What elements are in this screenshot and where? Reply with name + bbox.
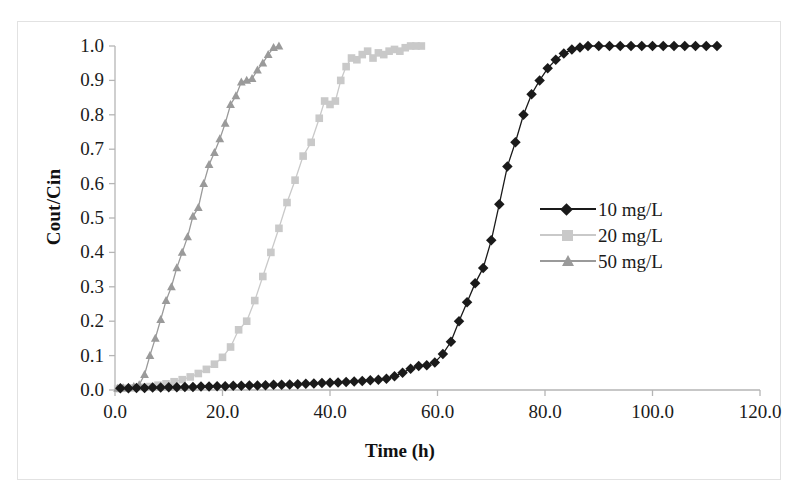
x-tick-label: 60.0 (393, 402, 483, 421)
series-marker (183, 232, 192, 240)
legend-marker-diamond-icon (560, 203, 573, 216)
series-marker (594, 41, 605, 52)
series-marker (258, 59, 267, 67)
series-marker (446, 337, 457, 348)
series-marker (422, 360, 433, 371)
series-marker (604, 41, 615, 52)
x-tick-label: 120.0 (715, 402, 801, 421)
series-marker (470, 278, 481, 289)
series-marker (146, 351, 155, 359)
series-marker (243, 317, 251, 325)
y-tick-label: 0.6 (50, 174, 104, 193)
series-marker (259, 273, 267, 281)
legend-symbol (540, 228, 596, 242)
series-marker (454, 316, 465, 327)
series-marker (658, 41, 669, 52)
series-marker (167, 282, 176, 290)
series-marker (227, 343, 235, 351)
series-line (118, 46, 422, 389)
series-marker (381, 373, 392, 384)
series-marker (494, 199, 505, 210)
series-line (118, 46, 279, 388)
series-marker (680, 41, 691, 52)
legend-label: 10 mg/L (596, 200, 663, 219)
series-marker (203, 366, 211, 374)
legend-item[interactable]: 10 mg/L (540, 196, 690, 222)
series-20-mg-l (114, 42, 425, 392)
y-tick-label: 0.0 (50, 380, 104, 399)
legend-item[interactable]: 20 mg/L (540, 222, 690, 248)
series-marker (189, 212, 198, 220)
legend-marker-square-icon (562, 230, 573, 241)
x-tick-label: 20.0 (178, 402, 268, 421)
series-marker (478, 263, 489, 274)
legend-marker-triangle-icon (562, 255, 574, 266)
legend-symbol (540, 254, 596, 268)
series-marker (502, 161, 513, 172)
series-marker (215, 134, 224, 142)
series-marker (510, 137, 521, 148)
series-marker (337, 77, 345, 85)
series-marker (156, 315, 165, 323)
series-marker (140, 370, 149, 378)
series-marker (701, 41, 712, 52)
y-tick-label: 0.4 (50, 242, 104, 261)
series-marker (583, 41, 594, 52)
series-marker (186, 373, 194, 381)
chart-legend: 10 mg/L20 mg/L50 mg/L (540, 196, 690, 274)
legend-item[interactable]: 50 mg/L (540, 248, 690, 274)
series-marker (194, 203, 203, 211)
series-marker (195, 370, 203, 378)
y-tick-label: 1.0 (50, 36, 104, 55)
series-marker (712, 41, 723, 52)
y-tick-label: 0.7 (50, 139, 104, 158)
series-marker (178, 248, 187, 256)
y-tick-label: 0.8 (50, 105, 104, 124)
series-marker (251, 297, 259, 305)
series-marker (615, 41, 626, 52)
x-tick-label: 0.0 (70, 402, 160, 421)
series-marker (462, 297, 473, 308)
series-marker (226, 100, 235, 108)
series-marker (232, 91, 241, 99)
series-marker (518, 110, 529, 121)
series-marker (486, 235, 497, 246)
series-marker (248, 74, 257, 82)
series-marker (418, 42, 426, 50)
series-marker (307, 139, 315, 147)
series-marker (534, 75, 545, 86)
series-marker (235, 326, 243, 334)
series-marker (315, 114, 323, 122)
series-marker (172, 263, 181, 271)
series-marker (151, 334, 160, 342)
y-tick-label: 0.3 (50, 277, 104, 296)
legend-symbol (540, 202, 596, 216)
series-marker (669, 41, 680, 52)
series-marker (275, 41, 284, 49)
series-marker (373, 374, 384, 385)
series-marker (575, 42, 586, 53)
series-marker (219, 354, 227, 362)
series-marker (291, 176, 299, 184)
x-tick-label: 80.0 (500, 402, 590, 421)
series-marker (210, 148, 219, 156)
series-marker (626, 41, 637, 52)
series-marker (364, 47, 372, 55)
series-marker (690, 41, 701, 52)
series-marker (267, 249, 275, 257)
series-marker (162, 296, 171, 304)
series-50-mg-l (113, 41, 283, 391)
x-tick-label: 100.0 (608, 402, 698, 421)
series-marker (211, 360, 219, 368)
y-tick-label: 0.5 (50, 208, 104, 227)
series-marker (205, 160, 214, 168)
y-tick-label: 0.1 (50, 346, 104, 365)
y-tick-label: 0.2 (50, 311, 104, 330)
series-marker (275, 225, 283, 233)
x-tick-label: 40.0 (285, 402, 375, 421)
series-marker (199, 179, 208, 187)
series-marker (342, 63, 350, 71)
series-marker (299, 152, 307, 160)
series-marker (332, 97, 340, 105)
series-marker (221, 119, 230, 127)
